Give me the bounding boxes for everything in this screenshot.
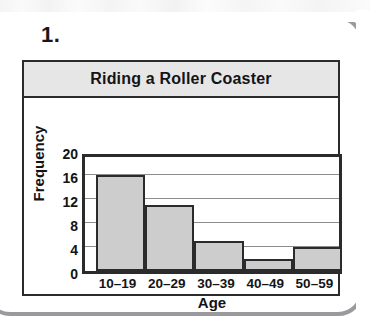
- page-frame-right-mask: [356, 10, 370, 322]
- y-tick-label: 12: [62, 195, 78, 209]
- bar: [96, 175, 145, 271]
- bar: [194, 241, 243, 271]
- y-axis-title-text: Frequency: [31, 125, 48, 201]
- histogram-figure: Riding a Roller Coaster Frequency 048121…: [22, 60, 340, 296]
- y-tick-label: 8: [70, 219, 78, 233]
- bar-series: [85, 157, 339, 271]
- y-tick-label: 4: [70, 243, 78, 257]
- chart-title: Riding a Roller Coaster: [90, 70, 272, 88]
- bar: [145, 205, 194, 271]
- x-axis-tick-labels: 10–1920–2930–3940–4950–59: [82, 276, 344, 296]
- y-axis-title: Frequency: [26, 98, 52, 228]
- plot-area: [82, 154, 342, 274]
- x-axis-title: Age: [82, 294, 342, 311]
- bar: [244, 259, 293, 271]
- y-tick-label: 16: [62, 171, 78, 185]
- bar: [293, 247, 342, 271]
- y-tick-label: 0: [70, 267, 78, 281]
- y-axis-tick-labels: 048121620: [52, 154, 82, 274]
- x-tick-label: 50–59: [286, 276, 343, 291]
- y-tick-label: 20: [62, 147, 78, 161]
- page-frame-top-mask: [0, 12, 370, 22]
- chart-plot-region: Frequency 048121620 10–1920–2930–3940–49…: [24, 98, 338, 296]
- chart-title-banner: Riding a Roller Coaster: [24, 62, 338, 98]
- question-number: 1.: [41, 22, 60, 48]
